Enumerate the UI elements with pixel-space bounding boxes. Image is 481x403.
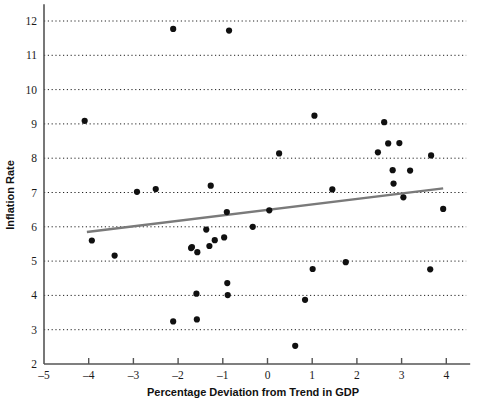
data-point — [400, 194, 406, 200]
y-tick-label: 2 — [31, 358, 37, 370]
x-tick-label: 4 — [443, 369, 449, 381]
data-point — [112, 253, 118, 259]
y-tick-label: 6 — [31, 221, 37, 233]
x-axis — [44, 358, 470, 364]
data-point — [396, 140, 402, 146]
data-point — [276, 150, 282, 156]
plot-area: 23456789101112 –5–4–3–2–101234 Percentag… — [0, 0, 481, 403]
data-point — [170, 26, 176, 32]
y-tick-label: 7 — [31, 187, 37, 199]
data-point — [208, 183, 214, 189]
data-points — [82, 26, 447, 349]
data-point — [440, 206, 446, 212]
data-point — [203, 226, 209, 232]
x-tick-label: 3 — [399, 369, 405, 381]
data-point — [390, 180, 396, 186]
data-point — [193, 291, 199, 297]
trendline-segment — [87, 188, 443, 232]
data-point — [343, 259, 349, 265]
x-axis-title: Percentage Deviation from Trend in GDP — [147, 386, 359, 398]
trendline — [87, 188, 443, 232]
x-tick-label: –2 — [171, 369, 184, 381]
x-tick-labels: –5–4–3–2–101234 — [37, 369, 449, 381]
data-point — [329, 186, 335, 192]
data-point — [153, 186, 159, 192]
x-tick-label: 2 — [354, 369, 360, 381]
data-point — [194, 316, 200, 322]
y-tick-label: 10 — [26, 84, 38, 96]
data-point — [134, 189, 140, 195]
data-point — [381, 119, 387, 125]
data-point — [427, 266, 433, 272]
data-point — [292, 343, 298, 349]
data-point — [224, 209, 230, 215]
data-point — [428, 152, 434, 158]
data-point — [250, 224, 256, 230]
x-tick-label: –5 — [37, 369, 50, 381]
data-point — [221, 234, 227, 240]
y-tick-labels: 23456789101112 — [26, 15, 38, 370]
data-point — [266, 207, 272, 213]
data-point — [310, 266, 316, 272]
data-point — [407, 167, 413, 173]
data-point — [225, 292, 231, 298]
data-point — [194, 249, 200, 255]
data-point — [385, 140, 391, 146]
y-axis-title: Inflation Rate — [4, 160, 16, 230]
gridlines — [44, 21, 466, 330]
y-tick-label: 12 — [26, 15, 38, 27]
data-point — [89, 237, 95, 243]
data-point — [302, 297, 308, 303]
data-point — [189, 244, 195, 250]
y-tick-label: 5 — [31, 255, 37, 267]
data-point — [206, 243, 212, 249]
data-point — [82, 118, 88, 124]
y-tick-label: 3 — [31, 324, 37, 336]
data-point — [226, 28, 232, 34]
y-tick-label: 9 — [31, 118, 37, 130]
x-tick-label: 0 — [265, 369, 271, 381]
data-point — [224, 280, 230, 286]
scatter-chart: 23456789101112 –5–4–3–2–101234 Percentag… — [0, 0, 481, 403]
x-tick-label: –1 — [216, 369, 229, 381]
data-point — [212, 237, 218, 243]
y-tick-label: 4 — [31, 289, 37, 301]
data-point — [170, 318, 176, 324]
data-point — [375, 149, 381, 155]
x-tick-label: –3 — [127, 369, 140, 381]
x-tick-label: 1 — [309, 369, 315, 381]
y-tick-label: 8 — [31, 152, 37, 164]
data-point — [311, 113, 317, 119]
y-tick-label: 11 — [26, 49, 37, 61]
data-point — [390, 167, 396, 173]
x-tick-label: –4 — [82, 369, 95, 381]
